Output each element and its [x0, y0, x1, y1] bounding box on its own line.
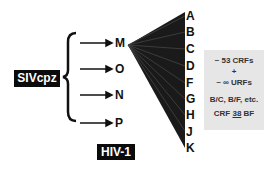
- subtype-d: D: [186, 60, 195, 72]
- urf-count: ~ ∞ URFs: [204, 77, 264, 88]
- subtype-c: C: [186, 43, 195, 55]
- subtype-g: G: [186, 93, 195, 105]
- recombinant-examples: B/C, B/F, etc.: [204, 94, 264, 105]
- subtype-f: F: [186, 77, 193, 89]
- group-p: P: [115, 116, 123, 130]
- crf-count: ~ 53 CRFs: [204, 55, 264, 66]
- plus-sign: +: [204, 66, 264, 77]
- crf-38-bf: CRF 38 BF: [204, 108, 264, 119]
- group-o: O: [115, 62, 124, 76]
- subtype-b: B: [186, 26, 195, 38]
- subtype-j: J: [186, 126, 193, 138]
- siv-box: SIVcpz: [14, 70, 60, 87]
- recombinants-box: ~ 53 CRFs + ~ ∞ URFs B/C, B/F, etc. CRF …: [204, 50, 264, 130]
- group-n: N: [115, 88, 124, 102]
- group-m: M: [115, 36, 125, 50]
- subtype-a: A: [186, 10, 195, 22]
- subtype-h: H: [186, 109, 195, 121]
- brace-icon: [63, 33, 76, 121]
- subtype-k: K: [186, 142, 195, 154]
- hiv1-box: HIV-1: [97, 144, 135, 160]
